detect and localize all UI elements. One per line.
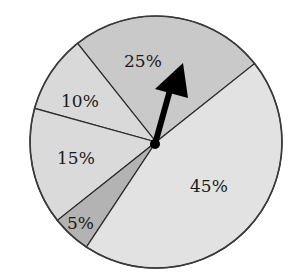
label-45: 45% xyxy=(190,176,228,196)
label-15: 15% xyxy=(57,148,95,168)
label-25: 25% xyxy=(124,51,162,71)
spinner-pivot xyxy=(150,139,160,149)
spinner-svg: 25% 10% 15% 5% 45% xyxy=(0,0,306,277)
label-10: 10% xyxy=(61,91,99,111)
label-5: 5% xyxy=(67,213,94,233)
spinner-chart: 25% 10% 15% 5% 45% xyxy=(0,0,306,277)
